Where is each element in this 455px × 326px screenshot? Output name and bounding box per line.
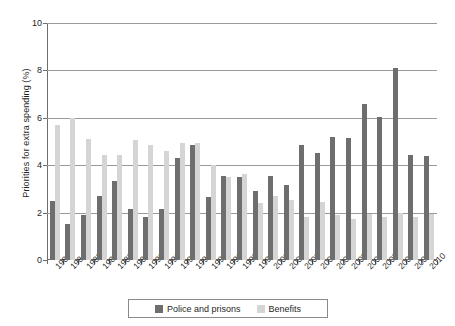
bar — [398, 213, 403, 260]
bar-group — [203, 23, 219, 260]
bar-group — [328, 23, 344, 260]
chart-legend: Police and prisonsBenefits — [128, 299, 328, 318]
bars-layer — [47, 23, 437, 260]
bar-group — [156, 23, 172, 260]
bar-group — [109, 23, 125, 260]
bar — [367, 214, 372, 260]
bar-group — [359, 23, 375, 260]
plot-area: 0246810 — [47, 23, 437, 260]
bar — [258, 203, 263, 260]
bar-group — [297, 23, 313, 260]
bar-chart: Priorities for extra spending (%) 024681… — [0, 0, 455, 326]
bar — [133, 140, 138, 260]
y-tick-label: 6 — [37, 113, 42, 123]
legend-label: Police and prisons — [167, 304, 241, 314]
bar — [180, 143, 185, 260]
bar-group — [172, 23, 188, 260]
bar-group — [421, 23, 437, 260]
bar-group — [406, 23, 422, 260]
bar — [320, 202, 325, 260]
bar — [86, 139, 91, 260]
bar — [429, 214, 434, 260]
bar-group — [141, 23, 157, 260]
y-tick-label: 0 — [37, 255, 42, 265]
bar-group — [63, 23, 79, 260]
bar-group — [234, 23, 250, 260]
bar-group — [390, 23, 406, 260]
legend-swatch-icon — [257, 305, 265, 313]
bar-group — [47, 23, 63, 260]
bar — [351, 219, 356, 260]
bar — [242, 174, 247, 261]
y-axis-title: Priorities for extra spending (%) — [21, 33, 31, 233]
bar-group — [343, 23, 359, 260]
y-tick-label: 4 — [37, 160, 42, 170]
bar — [148, 145, 153, 260]
bar — [304, 217, 309, 260]
bar-group — [374, 23, 390, 260]
bar — [226, 177, 231, 260]
bar — [335, 215, 340, 260]
bar-group — [312, 23, 328, 260]
bar — [70, 118, 75, 260]
bar-group — [250, 23, 266, 260]
bar — [164, 151, 169, 260]
y-tick-label: 10 — [32, 18, 42, 28]
bar — [289, 200, 294, 260]
legend-label: Benefits — [269, 304, 302, 314]
legend-entry: Benefits — [257, 304, 302, 314]
bar — [273, 196, 278, 260]
bar-group — [281, 23, 297, 260]
bar-group — [265, 23, 281, 260]
legend-entry: Police and prisons — [155, 304, 241, 314]
bar-group — [219, 23, 235, 260]
bar — [117, 155, 122, 260]
bar — [382, 217, 387, 260]
bar-group — [187, 23, 203, 260]
bar — [195, 143, 200, 260]
bar — [55, 125, 60, 260]
x-axis-labels: 1983198419851986198719891990199119931994… — [47, 264, 437, 300]
bar — [102, 155, 107, 260]
bar — [413, 217, 418, 260]
bar-group — [125, 23, 141, 260]
y-tick-label: 8 — [37, 65, 42, 75]
bar-group — [94, 23, 110, 260]
y-tick-label: 2 — [37, 208, 42, 218]
legend-swatch-icon — [155, 305, 163, 313]
bar-group — [78, 23, 94, 260]
bar — [211, 165, 216, 260]
